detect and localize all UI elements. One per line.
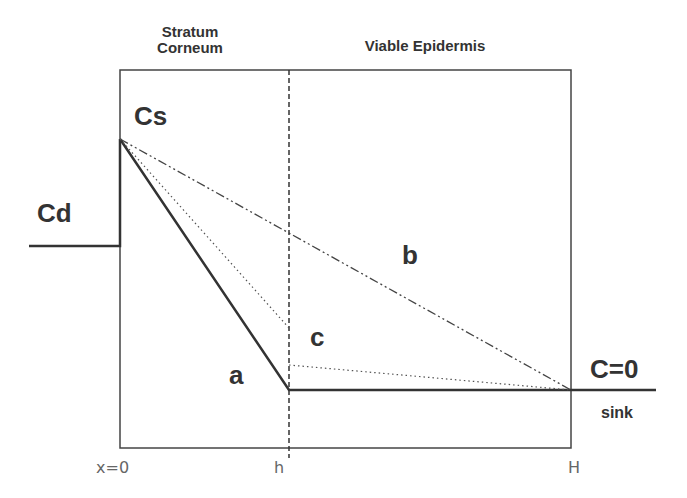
- profile-c-line-ve: [289, 365, 571, 390]
- stratum-corneum-label-line2: Corneum: [140, 40, 240, 56]
- profile-b-line: [120, 139, 571, 390]
- viable-epidermis-label: Viable Epidermis: [335, 38, 515, 54]
- stratum-corneum-label: Stratum Corneum: [140, 24, 240, 56]
- H-tick-label: H: [568, 458, 580, 477]
- diffusion-profile-diagram: [0, 0, 687, 498]
- x0-tick-label: x=0: [96, 458, 129, 477]
- profile-b-label: b: [402, 240, 418, 271]
- stratum-corneum-label-line1: Stratum: [140, 24, 240, 40]
- cd-label: Cd: [37, 198, 72, 229]
- c-zero-label: C=0: [590, 354, 638, 385]
- profile-c-label: c: [310, 322, 324, 353]
- h-tick-label: h: [274, 458, 284, 477]
- profile-c-line-sc: [120, 139, 289, 328]
- donor-concentration-line: [29, 139, 120, 246]
- profile-a-label: a: [229, 360, 243, 391]
- profile-a-line: [120, 139, 656, 390]
- cs-label: Cs: [134, 101, 167, 132]
- sink-label: sink: [601, 404, 633, 422]
- skin-domain-box: [120, 70, 571, 448]
